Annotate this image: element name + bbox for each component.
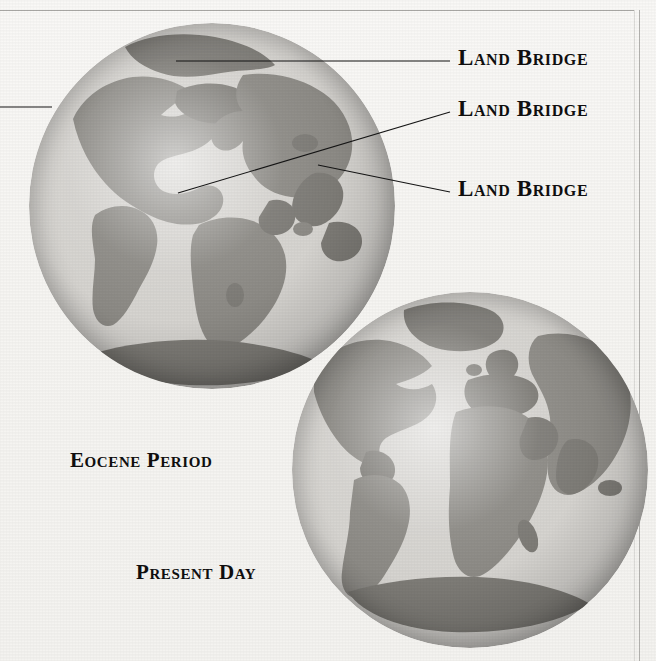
landmass-south-america-present (342, 475, 410, 598)
figure-canvas: Land Bridge Land Bridge Land Bridge Eoce… (0, 0, 656, 661)
landmass-greenland-present (404, 303, 504, 352)
caption-eocene-period: Eocene Period (70, 450, 212, 471)
landmass-north-america (314, 340, 436, 467)
present-day-globe (292, 292, 648, 648)
caption-present-day: Present Day (136, 562, 256, 583)
landmass-australia (321, 222, 362, 262)
page-rule-top (0, 10, 634, 11)
present-landmasses (292, 292, 648, 648)
landmass-north-polar (125, 34, 275, 77)
landmass-south-america (92, 206, 158, 326)
landmass-island-b (226, 283, 244, 307)
landmass-africa (191, 218, 287, 348)
landmass-antarctica (95, 340, 321, 386)
landmass-island-indonesia (598, 480, 622, 496)
label-land-bridge-3: Land Bridge (458, 177, 588, 200)
landmass-island-uk (466, 364, 482, 376)
label-land-bridge-2: Land Bridge (458, 97, 588, 120)
landmass-india-present (556, 439, 598, 494)
landmass-arabia (259, 200, 296, 235)
landmass-island-c (292, 134, 318, 152)
label-land-bridge-1: Land Bridge (458, 46, 588, 69)
landmass-antarctica-present (348, 577, 590, 632)
landmass-island-a (293, 222, 313, 236)
